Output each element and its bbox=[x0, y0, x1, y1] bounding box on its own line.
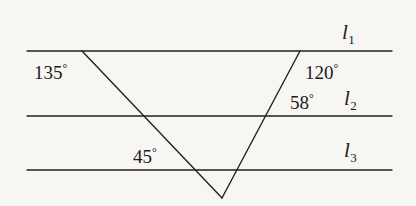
angle-label-135: 135° bbox=[34, 62, 67, 82]
degree-symbol-icon: ° bbox=[152, 145, 157, 159]
transversal-left-leg bbox=[82, 51, 222, 198]
angle-label-58: 58° bbox=[290, 92, 314, 112]
line-label-subscript: 3 bbox=[350, 150, 357, 165]
degree-symbol-icon: ° bbox=[309, 91, 314, 105]
line-label-letter: l bbox=[344, 86, 350, 110]
line-label-subscript: 1 bbox=[348, 32, 355, 47]
degree-symbol-icon: ° bbox=[63, 61, 68, 75]
angle-value-120: 120 bbox=[305, 62, 334, 83]
degree-symbol-icon: ° bbox=[334, 61, 339, 75]
line-label-subscript: 2 bbox=[350, 98, 357, 113]
angle-value-45: 45 bbox=[133, 146, 152, 167]
angle-value-135: 135 bbox=[34, 62, 63, 83]
angle-label-120: 120° bbox=[305, 62, 338, 82]
angle-label-45: 45° bbox=[133, 146, 157, 166]
line-label-l1: l1 bbox=[342, 22, 355, 46]
line-label-letter: l bbox=[342, 20, 348, 44]
line-label-l2: l2 bbox=[344, 88, 357, 112]
angle-value-58: 58 bbox=[290, 92, 309, 113]
line-label-letter: l bbox=[344, 138, 350, 162]
transversal-right-leg bbox=[222, 51, 300, 198]
line-label-l3: l3 bbox=[344, 140, 357, 164]
geometry-figure: 135° 120° 58° 45° l1 l2 l3 bbox=[0, 0, 416, 206]
